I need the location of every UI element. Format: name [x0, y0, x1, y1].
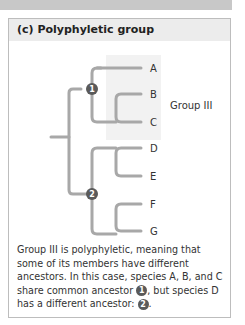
branch-fg [116, 204, 141, 231]
leaf-e: E [150, 171, 156, 182]
caption: Group III is polyphyletic, meaning that … [17, 243, 225, 311]
caption-text-3: . [149, 298, 152, 309]
top-bar [0, 0, 232, 10]
leaf-g: G [150, 226, 158, 237]
leaf-b: B [150, 89, 157, 100]
node-1-icon: 1 [86, 83, 98, 95]
leaf-c: C [150, 117, 157, 128]
branch-de [116, 148, 141, 176]
leaf-a: A [150, 63, 157, 74]
leaf-d: D [150, 143, 158, 154]
svg-text:1: 1 [89, 85, 95, 94]
node-2-icon: 2 [86, 188, 98, 200]
leaf-f: F [150, 199, 156, 210]
node-1-badge-icon: 1 [136, 285, 147, 296]
group-label: Group III [170, 100, 212, 111]
main-branch [69, 89, 89, 194]
polyphyletic-panel: (c) Polyphyletic group 1 [8, 18, 231, 318]
node-2-badge-icon: 2 [138, 299, 149, 310]
svg-text:2: 2 [89, 190, 95, 199]
